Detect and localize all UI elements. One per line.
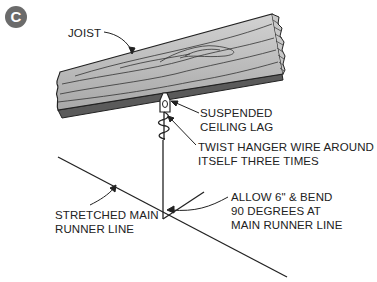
label-allow-bend-line1: ALLOW 6" & BEND: [231, 190, 332, 205]
label-suspended-ceiling-lag-line1: SUSPENDED: [200, 106, 272, 121]
ceiling-lag-icon: [160, 93, 170, 112]
twisted-hanger-wire: [159, 112, 170, 140]
label-stretched-runner-line2: RUNNER LINE: [55, 222, 134, 237]
label-stretched-runner-line1: STRETCHED MAIN: [55, 208, 159, 223]
label-suspended-ceiling-lag-line2: CEILING LAG: [200, 120, 273, 135]
label-twist-hanger-line2: ITSELF THREE TIMES: [198, 154, 319, 169]
label-joist: JOIST: [68, 26, 101, 41]
label-allow-bend-line3: MAIN RUNNER LINE: [231, 218, 343, 233]
label-twist-hanger-line1: TWIST HANGER WIRE AROUND: [198, 140, 374, 155]
label-allow-bend-line2: 90 DEGREES AT: [231, 204, 321, 219]
